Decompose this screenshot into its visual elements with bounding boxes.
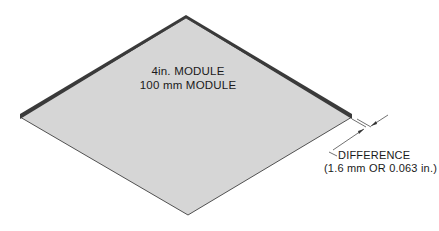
arrowhead-right <box>371 121 377 126</box>
leader-line <box>329 152 337 156</box>
difference-value: (1.6 mm OR 0.063 in.) <box>324 162 437 174</box>
module-panel <box>20 18 352 215</box>
module-label: 4in. MODULE 100 mm MODULE <box>133 64 243 92</box>
arrowhead-left <box>358 129 364 134</box>
difference-label: DIFFERENCE <box>338 149 410 161</box>
module-label-inches: 4in. MODULE <box>133 64 243 78</box>
module-label-mm: 100 mm MODULE <box>133 78 243 92</box>
module-diagram <box>0 0 439 231</box>
